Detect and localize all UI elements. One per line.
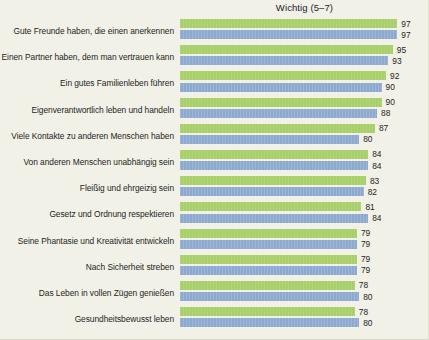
- bar-value-label: 79: [361, 239, 370, 249]
- bar-blue: [180, 214, 368, 223]
- bar-row: 79: [180, 240, 429, 249]
- bar-pair: 8780: [180, 124, 429, 148]
- bar-pair: 8184: [180, 202, 429, 226]
- bar-value-label: 90: [386, 82, 395, 92]
- category-label: Gute Freunde haben, die einen anerkennen: [0, 26, 174, 36]
- bar-row: 84: [180, 214, 429, 223]
- bar-group: Von anderen Menschen unabhängig sein8484: [0, 149, 429, 175]
- bar-pair: 7979: [180, 229, 429, 253]
- bar-group: Viele Kontakte zu anderen Menschen haben…: [0, 123, 429, 149]
- bar-row: 97: [180, 30, 429, 39]
- bar-value-label: 79: [361, 254, 370, 264]
- category-label: Von anderen Menschen unabhängig sein: [0, 157, 174, 167]
- bar-group: Gesundheitsbewusst leben7880: [0, 306, 429, 332]
- bar-value-label: 93: [392, 56, 401, 66]
- bar-pair: 8484: [180, 150, 429, 174]
- bar-green: [180, 71, 386, 80]
- bar-value-label: 78: [359, 280, 368, 290]
- category-label: Einen Partner haben, dem man vertrauen k…: [0, 52, 174, 62]
- bar-row: 84: [180, 150, 429, 159]
- bar-pair: 7880: [180, 307, 429, 331]
- category-label: Seine Phantasie und Kreativität entwicke…: [0, 236, 174, 246]
- chart-container: Wichtig (5–7) Gute Freunde haben, die ei…: [0, 0, 429, 340]
- bar-row: 81: [180, 202, 429, 211]
- bar-row: 93: [180, 56, 429, 65]
- bar-row: 83: [180, 176, 429, 185]
- bar-value-label: 82: [368, 187, 377, 197]
- bar-blue: [180, 161, 368, 170]
- bar-blue: [180, 109, 377, 118]
- bar-value-label: 80: [363, 134, 372, 144]
- bar-row: 88: [180, 109, 429, 118]
- bar-group: Gesetz und Ordnung respektieren8184: [0, 201, 429, 227]
- bar-green: [180, 307, 355, 316]
- bar-blue: [180, 292, 359, 301]
- category-label: Viele Kontakte zu anderen Menschen haben: [0, 131, 174, 141]
- bar-value-label: 90: [386, 97, 395, 107]
- bar-blue: [180, 266, 357, 275]
- bar-blue: [180, 30, 397, 39]
- bar-pair: 7979: [180, 255, 429, 279]
- bar-row: 84: [180, 161, 429, 170]
- bar-value-label: 87: [379, 123, 388, 133]
- bar-row: 95: [180, 45, 429, 54]
- bar-green: [180, 202, 361, 211]
- bar-row: 80: [180, 318, 429, 327]
- bar-pair: 9593: [180, 45, 429, 69]
- bar-pair: 9088: [180, 98, 429, 122]
- bar-group: Seine Phantasie und Kreativität entwicke…: [0, 228, 429, 254]
- category-label: Eigenverantwortlich leben und handeln: [0, 105, 174, 115]
- bar-value-label: 97: [401, 30, 410, 40]
- bar-blue: [180, 318, 359, 327]
- bar-green: [180, 19, 397, 28]
- bar-row: 80: [180, 292, 429, 301]
- bar-group: Fleißig und ehrgeizig sein8382: [0, 175, 429, 201]
- bar-row: 97: [180, 19, 429, 28]
- bar-blue: [180, 240, 357, 249]
- bar-value-label: 84: [372, 213, 381, 223]
- bar-value-label: 79: [361, 228, 370, 238]
- chart-title: Wichtig (5–7): [180, 2, 429, 13]
- bar-green: [180, 176, 366, 185]
- bar-value-label: 78: [359, 307, 368, 317]
- bar-blue: [180, 187, 364, 196]
- category-label: Fleißig und ehrgeizig sein: [0, 183, 174, 193]
- bar-row: 79: [180, 266, 429, 275]
- bar-group: Nach Sicherheit streben7979: [0, 254, 429, 280]
- bar-value-label: 88: [381, 108, 390, 118]
- category-label: Gesetz und Ordnung respektieren: [0, 209, 174, 219]
- bar-group: Gute Freunde haben, die einen anerkennen…: [0, 18, 429, 44]
- bar-value-label: 84: [372, 149, 381, 159]
- bar-green: [180, 150, 368, 159]
- category-label: Gesundheitsbewusst leben: [0, 314, 174, 324]
- bar-row: 80: [180, 135, 429, 144]
- bar-value-label: 80: [363, 292, 372, 302]
- bar-value-label: 92: [390, 71, 399, 81]
- bar-green: [180, 229, 357, 238]
- bar-pair: 9797: [180, 19, 429, 43]
- bar-green: [180, 255, 357, 264]
- bar-value-label: 97: [401, 19, 410, 29]
- bar-row: 87: [180, 124, 429, 133]
- bar-row: 90: [180, 98, 429, 107]
- bar-blue: [180, 135, 359, 144]
- bar-green: [180, 98, 382, 107]
- bar-green: [180, 45, 393, 54]
- bar-pair: 8382: [180, 176, 429, 200]
- bar-green: [180, 124, 375, 133]
- bar-value-label: 95: [397, 45, 406, 55]
- bar-group: Eigenverantwortlich leben und handeln908…: [0, 97, 429, 123]
- bar-blue: [180, 56, 388, 65]
- bar-row: 82: [180, 187, 429, 196]
- bar-group: Ein gutes Familienleben führen9290: [0, 70, 429, 96]
- bar-row: 79: [180, 255, 429, 264]
- bar-group: Das Leben in vollen Zügen genießen7880: [0, 280, 429, 306]
- bar-row: 78: [180, 281, 429, 290]
- bar-group: Einen Partner haben, dem man vertrauen k…: [0, 44, 429, 70]
- bar-row: 78: [180, 307, 429, 316]
- plot-area: Gute Freunde haben, die einen anerkennen…: [0, 18, 429, 338]
- bar-pair: 9290: [180, 71, 429, 95]
- bar-value-label: 81: [365, 202, 374, 212]
- bar-row: 79: [180, 229, 429, 238]
- bar-value-label: 84: [372, 161, 381, 171]
